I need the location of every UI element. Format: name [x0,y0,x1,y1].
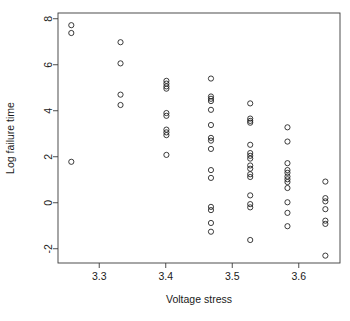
data-point [164,152,169,157]
data-point [248,166,253,171]
y-tick-label: 2 [42,154,54,160]
data-point [69,159,74,164]
y-tick-label: -2 [42,244,54,253]
data-point [323,199,328,204]
x-axis: 3.33.43.53.6 [92,263,306,282]
data-point [285,139,290,144]
data-point [118,102,123,107]
x-tick-label: 3.5 [225,270,240,282]
data-point [323,253,328,258]
data-point [248,237,253,242]
data-point [208,220,213,225]
x-axis-title: Voltage stress [166,293,232,305]
y-tick-label: 8 [42,16,54,22]
scatter-plot-figure: 3.33.43.53.6 -202468 Voltage stress Log … [0,0,350,321]
y-axis-title: Log failure time [4,102,16,174]
data-point [208,167,213,172]
data-points-layer [69,23,328,259]
data-point [248,193,253,198]
data-point [69,23,74,28]
data-point [323,221,328,226]
data-point [208,229,213,234]
x-tick-label: 3.3 [92,270,107,282]
data-point [323,179,328,184]
data-point [285,200,290,205]
data-point [208,122,213,127]
data-point [248,142,253,147]
y-axis: -202468 [42,16,58,254]
data-point [285,224,290,229]
data-point [118,61,123,66]
data-point [285,210,290,215]
data-point [248,205,253,210]
chart-canvas: 3.33.43.53.6 -202468 Voltage stress Log … [0,0,350,321]
data-point [118,40,123,45]
data-point [285,161,290,166]
y-tick-label: 6 [42,62,54,68]
data-point [208,76,213,81]
data-point [285,125,290,130]
data-point [248,101,253,106]
data-point [285,185,290,190]
data-point [208,107,213,112]
plot-frame [58,13,340,263]
data-point [323,207,328,212]
data-point [118,92,123,97]
y-tick-label: 0 [42,200,54,206]
data-point [208,175,213,180]
data-point [208,208,213,213]
y-tick-label: 4 [42,108,54,114]
data-point [69,30,74,35]
data-point [208,146,213,151]
x-tick-label: 3.6 [291,270,306,282]
x-tick-label: 3.4 [158,270,173,282]
